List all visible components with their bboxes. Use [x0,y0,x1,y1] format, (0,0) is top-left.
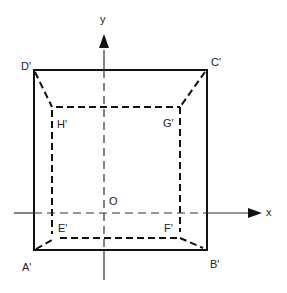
vertex-label-e: E' [58,223,67,234]
diagram-canvas [0,0,287,293]
origin-label: O [109,196,118,207]
y-axis-label: y [100,14,106,25]
vertex-label-f: F' [164,223,173,234]
vertex-label-g: G' [163,118,174,129]
vertex-label-d: D' [21,61,31,72]
y-axis-arrow-icon [99,34,109,48]
x-axis-arrow-icon [248,208,262,218]
inner-square [52,107,180,238]
vertex-label-h: H' [57,119,67,130]
x-axis-label: x [266,207,272,218]
vertex-label-c: C' [211,57,221,68]
vertex-label-a: A' [22,262,31,273]
vertex-label-b: B' [210,259,219,270]
